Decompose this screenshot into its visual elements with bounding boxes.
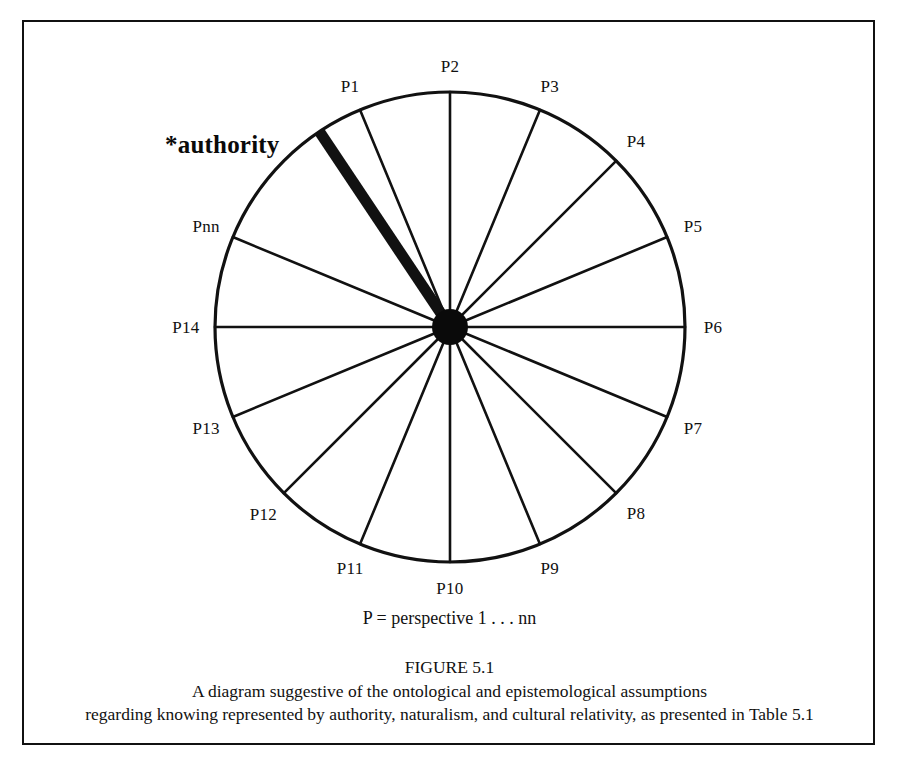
spoke-label-p11: P11 (337, 560, 364, 577)
spoke-label-p2: P2 (441, 58, 460, 75)
perspective-legend-note: P = perspective 1 . . . nn (0, 608, 899, 629)
spoke-label-p1: P1 (341, 77, 360, 94)
spoke-label-p12: P12 (250, 505, 277, 522)
spoke-label-p3: P3 (541, 77, 560, 94)
spoke-label-p14: P14 (172, 319, 199, 336)
authority-annotation-label: *authority (165, 131, 280, 159)
spoke-label-p10: P10 (436, 580, 463, 597)
spoke-label-p5: P5 (684, 218, 703, 235)
spoke-label-p4: P4 (627, 133, 646, 150)
spoke-label-pnn: Pnn (192, 217, 219, 234)
figure-caption-line-2: regarding knowing represented by authori… (30, 703, 869, 727)
spoke-label-p13: P13 (192, 420, 219, 437)
figure-caption-block: FIGURE 5.1 A diagram suggestive of the o… (30, 656, 869, 727)
spoke-label-p9: P9 (541, 560, 560, 577)
figure-page: P2P3P4P5P6P7P8P9P10P11P12P13P14PnnP1 *au… (0, 0, 899, 769)
figure-caption-line-1: A diagram suggestive of the ontological … (30, 680, 869, 704)
figure-number-title: FIGURE 5.1 (30, 656, 869, 680)
spoke-label-p6: P6 (704, 319, 723, 336)
spoke-label-p8: P8 (627, 504, 646, 521)
spoke-label-p7: P7 (684, 419, 703, 436)
figure-frame-border (22, 20, 875, 745)
